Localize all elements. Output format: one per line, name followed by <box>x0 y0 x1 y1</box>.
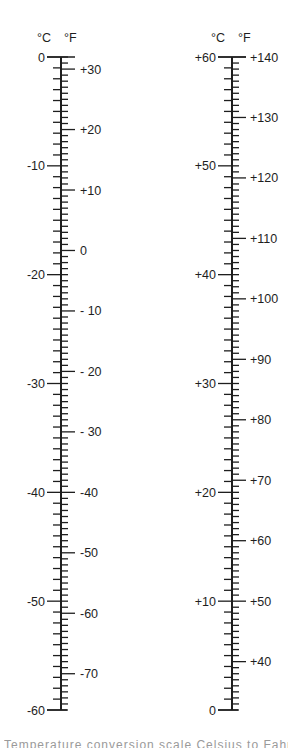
left-scale-celsius-minus60-to-0: °C°F0-10-20-30-40-50-60+30+20+100- 10- 2… <box>27 31 102 718</box>
celsius-label: 0 <box>38 51 45 65</box>
fahrenheit-label: +50 <box>250 595 271 609</box>
fahrenheit-label: 0 <box>80 244 87 258</box>
fahrenheit-header: °F <box>238 31 251 45</box>
celsius-label: -30 <box>27 377 45 391</box>
celsius-label: +60 <box>195 51 216 65</box>
fahrenheit-label: +110 <box>250 232 277 246</box>
fahrenheit-label: +30 <box>80 63 101 77</box>
celsius-label: +10 <box>195 595 216 609</box>
fahrenheit-label: +140 <box>250 51 278 65</box>
fahrenheit-label: - 10 <box>80 304 102 318</box>
fahrenheit-label: +90 <box>250 353 271 367</box>
fahrenheit-label: -70 <box>80 667 98 681</box>
celsius-label: +40 <box>195 268 216 282</box>
celsius-label: +30 <box>195 377 216 391</box>
celsius-label: -20 <box>27 268 45 282</box>
celsius-label: -50 <box>27 595 45 609</box>
fahrenheit-label: - 20 <box>80 365 102 379</box>
fahrenheit-label: +100 <box>250 292 278 306</box>
celsius-label: 0 <box>209 704 216 718</box>
fahrenheit-header: °F <box>64 31 77 45</box>
fahrenheit-label: +130 <box>250 111 278 125</box>
fahrenheit-label: - 30 <box>80 425 102 439</box>
fahrenheit-label: +10 <box>80 184 101 198</box>
celsius-label: -60 <box>27 704 45 718</box>
fahrenheit-label: +20 <box>80 123 101 137</box>
celsius-label: +50 <box>195 159 216 173</box>
celsius-header: °C <box>211 31 225 45</box>
fahrenheit-label: +60 <box>250 534 271 548</box>
right-scale-celsius-0-to-60: °C°F+60+50+40+30+20+100+140+130+120+110+… <box>195 31 278 718</box>
fahrenheit-label: +120 <box>250 171 278 185</box>
fahrenheit-label: -40 <box>80 486 98 500</box>
fahrenheit-label: +70 <box>250 474 271 488</box>
fahrenheit-label: -50 <box>80 546 98 560</box>
caption-text: Temperature conversion scale Celsius to … <box>4 738 288 748</box>
fahrenheit-label: +80 <box>250 413 271 427</box>
fahrenheit-label: +40 <box>250 655 271 669</box>
celsius-label: -40 <box>27 486 45 500</box>
celsius-label: +20 <box>195 486 216 500</box>
fahrenheit-label: -60 <box>80 607 98 621</box>
celsius-label: -10 <box>27 159 45 173</box>
celsius-header: °C <box>37 31 51 45</box>
